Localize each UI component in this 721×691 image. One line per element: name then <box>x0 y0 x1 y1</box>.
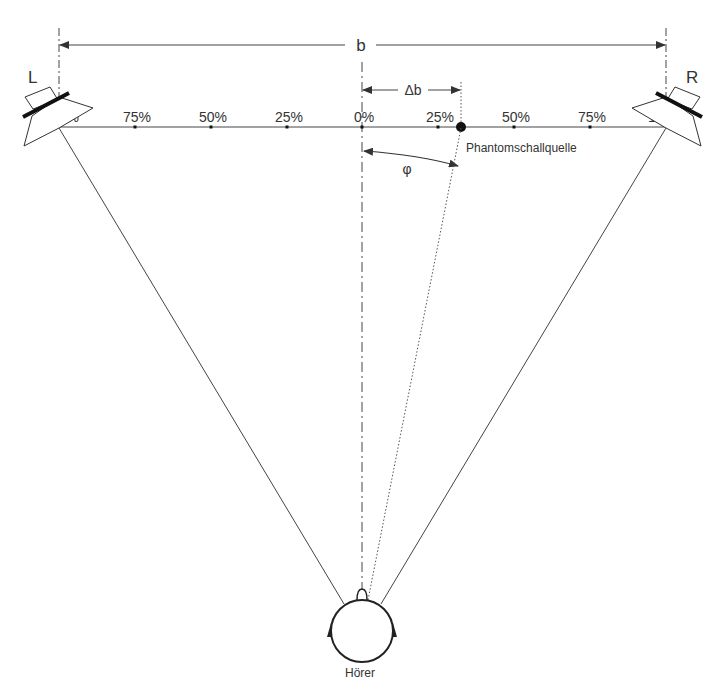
right-speaker-to-listener <box>381 128 666 604</box>
scale-tick <box>210 126 213 129</box>
tick-label-left-50: 50% <box>199 109 227 125</box>
scale-tick <box>361 126 364 129</box>
listener-head-circle <box>331 600 393 662</box>
scale-tick <box>134 126 137 129</box>
phantom-source-to-listener <box>368 128 461 600</box>
right-speaker-label: R <box>686 68 698 87</box>
tick-label-right-25: 25% <box>426 109 454 125</box>
stereo-diagram: b Δb 100% 75% 50% 25% 0% 25% 50% 75% 100… <box>0 0 721 691</box>
tick-label-center-0: 0% <box>354 109 374 125</box>
tick-label-left-25: 25% <box>275 109 303 125</box>
offset-label: Δb <box>404 82 421 98</box>
base-width-label: b <box>356 36 365 55</box>
phantom-source-label: Phantomschallquelle <box>466 141 577 155</box>
left-speaker: L <box>23 68 93 146</box>
left-speaker-to-listener <box>59 128 344 604</box>
tick-label-right-50: 50% <box>502 109 530 125</box>
listener-nose <box>357 589 367 600</box>
scale-tick <box>437 126 440 129</box>
right-speaker: R <box>632 68 702 146</box>
listener-label: Hörer <box>345 666 375 680</box>
scale-tick <box>513 126 516 129</box>
tick-label-left-75: 75% <box>123 109 151 125</box>
phantom-source-dot <box>456 122 466 132</box>
angle-label: φ <box>402 161 411 177</box>
scale-tick <box>589 126 592 129</box>
tick-label-right-75: 75% <box>578 109 606 125</box>
scale-tick <box>286 126 289 129</box>
left-speaker-label: L <box>28 68 37 87</box>
listener-head: Hörer <box>327 589 397 680</box>
